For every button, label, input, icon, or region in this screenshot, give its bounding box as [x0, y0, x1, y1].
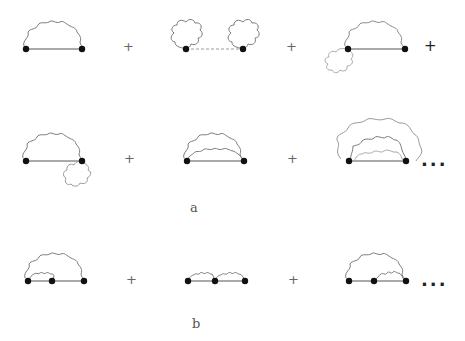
- diagram-b1: [25, 253, 84, 281]
- plus-operator: +: [126, 273, 137, 286]
- diagram-a6: [337, 118, 422, 161]
- vertex-dot: [403, 158, 409, 164]
- vertex-dot: [346, 278, 352, 284]
- vertex-dot: [183, 46, 189, 52]
- vertex-dot: [240, 46, 246, 52]
- panel-label-b: b: [192, 316, 200, 331]
- panel-label-a: a: [190, 200, 198, 215]
- diagram-a2: [171, 19, 259, 49]
- vertex-dot: [371, 278, 377, 284]
- diagram-a5: [184, 133, 244, 161]
- plus-operator: +: [286, 40, 297, 53]
- plus-operator: +: [124, 152, 135, 165]
- vertex-dot: [49, 278, 55, 284]
- vertex-dot: [403, 278, 409, 284]
- continuation-ellipsis: ...: [421, 273, 448, 287]
- vertex-dot: [346, 158, 352, 164]
- vertex-dot: [23, 46, 29, 52]
- diagram-b3: [346, 253, 406, 281]
- vertex-dot: [23, 158, 29, 164]
- plus-operator: +: [424, 40, 437, 53]
- continuation-ellipsis: ...: [421, 153, 448, 167]
- vertex-dot: [185, 278, 191, 284]
- vertex-dot: [402, 46, 408, 52]
- vertex-dot: [81, 278, 87, 284]
- vertex-dot: [345, 46, 351, 52]
- vertex-dot: [184, 158, 190, 164]
- vertex-dot: [241, 158, 247, 164]
- plus-operator: +: [123, 40, 134, 53]
- vertex-dot: [25, 278, 31, 284]
- vertex-dot: [79, 46, 85, 52]
- plus-operator: +: [288, 273, 299, 286]
- feynman-diagrams-canvas: [0, 0, 465, 341]
- vertex-dot: [242, 278, 248, 284]
- diagram-a1: [24, 21, 83, 49]
- diagram-a3: [325, 21, 405, 73]
- vertex-dot: [212, 278, 218, 284]
- vertices: [23, 46, 409, 284]
- plus-operator: +: [287, 152, 298, 165]
- vertex-dot: [79, 158, 85, 164]
